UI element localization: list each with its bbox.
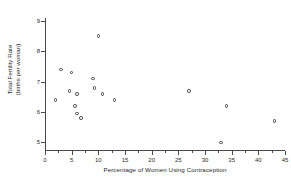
x-tick-label: 35 bbox=[228, 156, 235, 164]
data-point bbox=[68, 89, 72, 93]
x-tick-label: 25 bbox=[175, 156, 182, 164]
scatter-plot-figure: 051015202530354045 56789 Percentage of W… bbox=[0, 0, 291, 184]
x-tick-mark bbox=[285, 151, 286, 155]
x-tick-mark bbox=[45, 151, 46, 155]
data-point bbox=[73, 104, 77, 108]
plot-area bbox=[45, 18, 285, 150]
data-point bbox=[79, 116, 83, 120]
x-minor-tick-mark bbox=[165, 151, 166, 153]
data-point bbox=[225, 104, 229, 108]
x-tick-label: 30 bbox=[202, 156, 209, 164]
x-tick-label: 10 bbox=[95, 156, 102, 164]
y-tick-label: 7 bbox=[32, 78, 40, 86]
data-point bbox=[101, 92, 105, 96]
x-minor-tick-mark bbox=[138, 151, 139, 153]
y-tick-label: 6 bbox=[32, 108, 40, 116]
x-tick-label: 45 bbox=[282, 156, 289, 164]
data-point bbox=[75, 92, 79, 96]
x-tick-label: 15 bbox=[122, 156, 129, 164]
x-tick-label: 20 bbox=[148, 156, 155, 164]
x-tick-mark bbox=[152, 151, 153, 155]
data-point bbox=[219, 141, 223, 145]
y-tick-label: 5 bbox=[32, 138, 40, 146]
x-minor-tick-mark bbox=[58, 151, 59, 153]
x-tick-label: 0 bbox=[43, 156, 46, 164]
y-tick-label: 8 bbox=[32, 47, 40, 55]
data-point bbox=[97, 34, 101, 38]
y-tick-label: 9 bbox=[32, 17, 40, 25]
y-axis-title: Total Fertility Rate (births per woman) bbox=[6, 20, 21, 120]
data-point bbox=[113, 98, 117, 102]
x-minor-tick-mark bbox=[218, 151, 219, 153]
x-tick-mark bbox=[232, 151, 233, 155]
data-point bbox=[273, 119, 277, 123]
x-tick-label: 5 bbox=[70, 156, 73, 164]
x-minor-tick-mark bbox=[112, 151, 113, 153]
x-tick-mark bbox=[258, 151, 259, 155]
x-axis-title: Percentage of Women Using Contraception bbox=[45, 166, 285, 173]
x-minor-tick-mark bbox=[192, 151, 193, 153]
y-axis-title-line2: (births per woman) bbox=[13, 20, 21, 120]
x-minor-tick-mark bbox=[245, 151, 246, 153]
data-point bbox=[93, 86, 97, 90]
x-tick-mark bbox=[125, 151, 126, 155]
x-tick-mark bbox=[72, 151, 73, 155]
x-minor-tick-mark bbox=[85, 151, 86, 153]
x-tick-mark bbox=[205, 151, 206, 155]
y-axis-title-line1: Total Fertility Rate bbox=[6, 20, 14, 120]
x-tick-mark bbox=[98, 151, 99, 155]
x-minor-tick-mark bbox=[272, 151, 273, 153]
x-tick-mark bbox=[178, 151, 179, 155]
x-tick-label: 40 bbox=[255, 156, 262, 164]
data-point bbox=[187, 89, 191, 93]
